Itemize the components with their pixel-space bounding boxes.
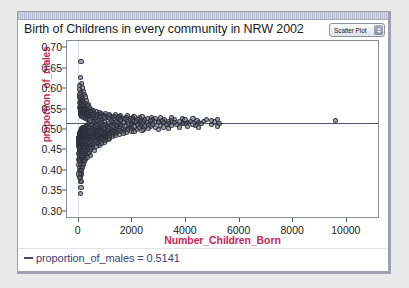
x-tick-mark bbox=[131, 218, 132, 222]
legend-divider bbox=[18, 248, 388, 249]
y-tick-label: 0.70 bbox=[42, 41, 62, 53]
y-tick-label: 0.50 bbox=[42, 123, 62, 135]
scatter-point bbox=[78, 191, 83, 196]
y-tick-label: 0.40 bbox=[42, 164, 62, 176]
scatter-point bbox=[209, 122, 214, 127]
y-tick-label: 0.35 bbox=[42, 184, 62, 196]
x-axis-title: Number_Children_Born bbox=[66, 234, 379, 246]
scatter-point bbox=[131, 129, 136, 134]
scatter-point bbox=[139, 128, 144, 133]
y-axis-title: proportion_of_males bbox=[41, 11, 52, 185]
plot-canvas bbox=[67, 41, 378, 217]
scatter-point bbox=[177, 124, 182, 129]
x-tick-mark bbox=[239, 218, 240, 222]
chart-window: Birth of Childrens in every community in… bbox=[17, 11, 391, 274]
legend-line-swatch bbox=[24, 257, 33, 259]
scatter-point bbox=[196, 125, 201, 130]
chart-header: Birth of Childrens in every community in… bbox=[18, 21, 388, 41]
x-tick-mark bbox=[185, 218, 186, 222]
x-tick-mark bbox=[346, 218, 347, 222]
scatter-point bbox=[166, 126, 171, 131]
plot-type-selected-label: Scatter Plot bbox=[334, 27, 366, 34]
x-tick-mark bbox=[78, 218, 79, 222]
y-tick-label: 0.65 bbox=[42, 62, 62, 74]
scatter-point bbox=[78, 75, 83, 80]
x-tick-mark bbox=[292, 218, 293, 222]
y-tick-label: 0.55 bbox=[42, 103, 62, 115]
scatter-point bbox=[92, 148, 97, 153]
page-title: Birth of Childrens in every community in… bbox=[24, 22, 304, 36]
scatter-point bbox=[146, 126, 151, 131]
scatter-point bbox=[215, 124, 220, 129]
y-tick-label: 0.45 bbox=[42, 143, 62, 155]
legend: proportion_of_males = 0.5141 bbox=[24, 252, 180, 264]
y-tick-label: 0.30 bbox=[42, 205, 62, 217]
window-titlebar bbox=[18, 12, 388, 20]
scatter-point bbox=[78, 185, 83, 190]
scatter-point bbox=[185, 124, 190, 129]
scatter-point bbox=[156, 127, 161, 132]
plot-area bbox=[66, 40, 379, 218]
scatter-point bbox=[79, 179, 84, 184]
scatter-point bbox=[78, 59, 83, 64]
stepper-up-down-icon[interactable] bbox=[374, 25, 383, 35]
legend-label: proportion_of_males = 0.5141 bbox=[36, 252, 180, 264]
y-axis: proportion_of_males 0.300.350.400.450.50… bbox=[18, 40, 66, 218]
plot-type-select[interactable]: Scatter Plot bbox=[329, 23, 385, 37]
y-tick-label: 0.60 bbox=[42, 82, 62, 94]
